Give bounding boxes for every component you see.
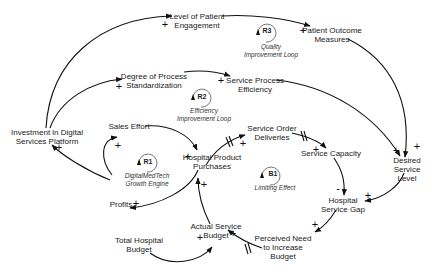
node-label: Profits (110, 200, 133, 209)
link-sales-purchases (145, 126, 197, 150)
node-sales-effort: Sales Effort (108, 122, 149, 131)
node-label: Patient Outcome Measures (302, 26, 362, 44)
node-label: Perceived Need to Increase Budget (255, 234, 312, 261)
link-outcome-desired (348, 39, 406, 157)
node-label: Hospital Product Purchases (183, 153, 242, 171)
link-deliveries-capacity (292, 133, 326, 148)
node-deliveries: Service Order Deliveries (247, 124, 296, 142)
node-label: Service Capacity (301, 149, 361, 158)
node-purchases: Hospital Product Purchases (183, 153, 242, 171)
node-desired: Desired Service Level (390, 156, 425, 183)
loop-r1-id: R1 (144, 158, 153, 165)
node-label: Sales Effort (108, 122, 149, 131)
polarity-plus: + (201, 179, 207, 190)
node-label: Hospital Service Gap (321, 196, 365, 214)
loop-r1-label: DigitalMedTech Growth Engine (125, 172, 170, 188)
polarity-plus: + (218, 75, 224, 86)
node-profits: Profits (110, 200, 133, 209)
polarity-plus: + (365, 190, 371, 201)
polarity-plus: + (312, 219, 318, 230)
polarity-plus: + (162, 19, 168, 30)
loop-r2-label: Efficiency Improvement Loop (177, 107, 231, 123)
link-efficiency-desired (276, 80, 400, 156)
node-total-budget: Total Hospital Budget (115, 236, 163, 254)
node-efficiency: Service Process Efficiency (226, 76, 284, 94)
loop-r3-label: Quality Improvement Loop (244, 43, 298, 59)
node-gap: Hospital Service Gap (321, 196, 365, 214)
polarity-plus: + (414, 141, 420, 152)
node-engagement: Level of Patient Engagement (169, 12, 224, 30)
node-label: Service Order Deliveries (247, 124, 296, 142)
polarity-plus: + (240, 138, 246, 149)
polarity-plus: + (300, 25, 306, 36)
loop-b1-id: B1 (269, 170, 278, 177)
node-label: Total Hospital Budget (115, 236, 163, 254)
node-label: Desired Service Level (393, 156, 421, 183)
loop-r3-id: R3 (263, 27, 272, 34)
node-label: Level of Patient Engagement (169, 12, 224, 30)
polarity-plus: + (116, 81, 122, 92)
node-label: Investment in Digital Services Platform (11, 128, 83, 146)
loop-b1-label: Limiting Effect (255, 184, 296, 192)
polarity-plus: + (197, 232, 203, 243)
node-label: Service Process Efficiency (226, 76, 284, 94)
node-capacity: Service Capacity (301, 149, 361, 158)
node-investment: Investment in Digital Services Platform (11, 128, 83, 146)
loop-r2-id: R2 (198, 93, 207, 100)
polarity-plus: + (185, 151, 191, 162)
node-label: Degree of Process Standardization (121, 72, 187, 90)
polarity-plus: + (56, 142, 62, 153)
node-need: Perceived Need to Increase Budget (255, 234, 312, 261)
polarity-plus: + (393, 145, 399, 156)
polarity-plus: + (230, 228, 236, 239)
node-standardization: Degree of Process Standardization (121, 72, 187, 90)
polarity-plus: + (133, 198, 139, 209)
polarity-plus: + (313, 144, 319, 155)
polarity-plus: + (115, 140, 121, 151)
node-outcome: Patient Outcome Measures (302, 26, 362, 44)
link-investment-standardization (50, 79, 122, 128)
polarity-minus: - (336, 183, 340, 194)
